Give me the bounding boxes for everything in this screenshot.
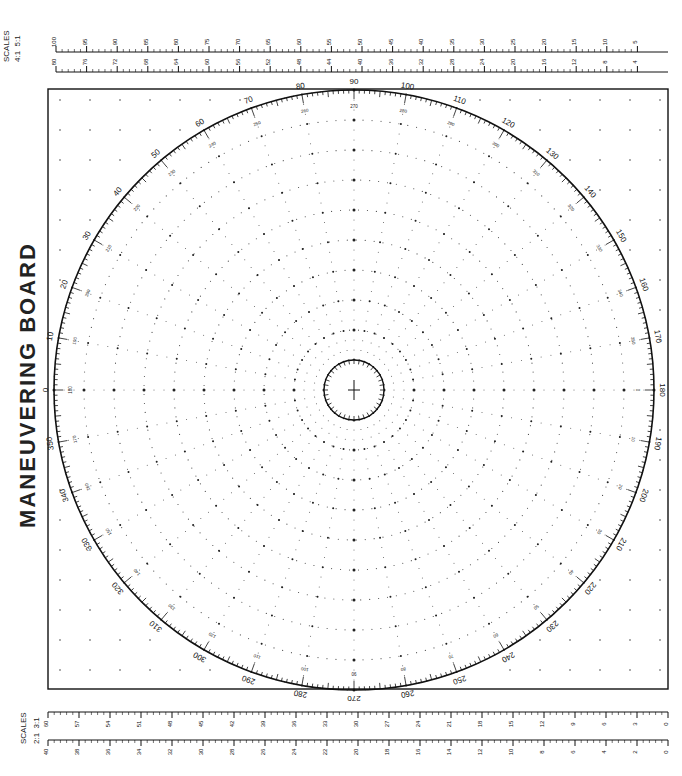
- scale-tick-label: 0: [663, 722, 669, 726]
- scale-tick-label: 12: [571, 58, 577, 65]
- scale-tick-label: 6: [601, 722, 607, 726]
- scale-tick-label: 33: [322, 720, 328, 727]
- reciprocal-bearing-label: 310: [532, 168, 541, 177]
- scale-tick-label: 27: [384, 720, 390, 727]
- scale-5-1: 1009590858075706560555045403530252015105: [51, 36, 668, 52]
- bearing-label: 20: [58, 278, 70, 290]
- reciprocal-bearing-label: 50: [532, 604, 539, 611]
- scale-tick-label: 32: [418, 58, 424, 65]
- scale-tick-label: 21: [446, 720, 452, 727]
- bearing-label: 260: [400, 688, 415, 699]
- scale-tick-label: 68: [143, 58, 149, 65]
- top-scales-heading: SCALES: [2, 30, 11, 62]
- scale-tick-label: 42: [229, 720, 235, 727]
- reciprocal-bearing-label: 100: [300, 666, 309, 672]
- ratio-2-1: 2:1: [32, 733, 41, 744]
- scale-tick-label: 48: [296, 58, 302, 65]
- reciprocal-bearing-label: 180: [68, 386, 73, 394]
- scale-tick-label: 15: [508, 720, 514, 727]
- scale-tick-label: 48: [167, 720, 173, 727]
- scale-4-1: 80767268646056524844403632282420161284: [51, 58, 668, 72]
- reciprocal-bearing-label: 130: [167, 603, 176, 612]
- scale-tick-label: 56: [235, 58, 241, 65]
- reciprocal-bearing-label: 220: [132, 203, 141, 212]
- bearing-label: 170: [652, 329, 663, 344]
- scale-tick-label: 12: [539, 720, 545, 727]
- reciprocal-bearing-label: 110: [252, 653, 261, 660]
- scale-tick-label: 18: [384, 748, 390, 755]
- scale-2-1: 4038363432302826242220181614121086420: [43, 740, 669, 755]
- reciprocal-bearing-label: 200: [84, 288, 91, 297]
- scale-tick-label: 8: [539, 750, 545, 754]
- scale-tick-label: 76: [82, 58, 88, 65]
- scale-tick-label: 40: [418, 38, 424, 45]
- scale-tick-label: 16: [415, 748, 421, 755]
- reciprocal-bearing-label: 60: [492, 632, 499, 639]
- reciprocal-bearing-label: 320: [567, 203, 576, 212]
- scale-tick-label: 39: [260, 720, 266, 727]
- reciprocal-bearing-label: 270: [350, 104, 358, 109]
- reciprocal-bearing-label: 140: [132, 567, 141, 576]
- reciprocal-bearing-label: 330: [595, 244, 603, 253]
- scale-tick-label: 40: [43, 748, 49, 755]
- scale-tick-label: 45: [388, 38, 394, 45]
- scale-tick-label: 95: [82, 38, 88, 45]
- bearing-label: 70: [243, 94, 255, 106]
- scale-tick-label: 25: [510, 38, 516, 45]
- scale-tick-label: 5: [632, 40, 638, 44]
- scale-tick-label: 52: [265, 58, 271, 65]
- scale-tick-label: 60: [204, 58, 210, 65]
- reciprocal-bearing-label: 70: [447, 653, 454, 660]
- scale-tick-label: 38: [74, 748, 80, 755]
- scale-3-1: 60575451484542393633302724211815129630: [43, 712, 669, 727]
- bottom-scales: 6057545148454239363330272421181512963040…: [43, 712, 669, 755]
- scale-tick-label: 36: [388, 58, 394, 65]
- scale-tick-label: 45: [198, 720, 204, 727]
- reciprocal-bearing-label: 290: [447, 120, 456, 127]
- bearing-label: 270: [347, 694, 361, 703]
- bearing-label: 10: [45, 331, 56, 342]
- bottom-scales-heading: SCALES: [19, 712, 28, 744]
- scale-tick-label: 10: [508, 748, 514, 755]
- scale-tick-label: 20: [353, 748, 359, 755]
- scale-tick-label: 14: [446, 748, 452, 755]
- scales-heading-text: SCALES: [2, 30, 11, 62]
- reciprocal-bearing-label: 90: [351, 671, 357, 676]
- reciprocal-bearing-label: 340: [617, 289, 624, 298]
- scale-tick-label: 9: [570, 722, 576, 726]
- ratio-4-1: 4:1: [13, 51, 22, 62]
- reciprocal-bearing-label: 160: [84, 482, 91, 491]
- reciprocal-bearing-label: 240: [208, 140, 217, 148]
- scales-heading-text: SCALES: [19, 712, 28, 744]
- scale-tick-label: 30: [479, 38, 485, 45]
- scale-tick-label: 60: [296, 38, 302, 45]
- scale-tick-label: 51: [136, 720, 142, 727]
- ratio-3-1: 3:1: [32, 717, 41, 728]
- scale-tick-label: 28: [229, 748, 235, 755]
- bearing-label: 150: [614, 228, 629, 245]
- scale-tick-label: 80: [173, 38, 179, 45]
- scale-tick-label: 24: [291, 748, 297, 755]
- scale-tick-label: 34: [136, 748, 142, 755]
- bearing-label: 280: [293, 688, 308, 699]
- bearing-label: 120: [500, 116, 517, 131]
- scale-tick-label: 10: [602, 38, 608, 45]
- scale-tick-label: 8: [602, 60, 608, 64]
- bearing-label: 100: [400, 81, 415, 92]
- scale-tick-label: 22: [322, 748, 328, 755]
- scale-tick-label: 15: [571, 38, 577, 45]
- reciprocal-bearing-label: 230: [167, 168, 176, 177]
- maneuvering-board: 1009590858075706560555045403530252015105…: [0, 0, 682, 776]
- reciprocal-bearing-label: 120: [207, 631, 216, 639]
- scale-tick-label: 2: [632, 750, 638, 754]
- reciprocal-bearing-label: 350: [630, 337, 636, 346]
- scale-tick-label: 18: [477, 720, 483, 727]
- bearing-label: 210: [614, 536, 629, 553]
- reciprocal-bearing-label: 260: [301, 108, 310, 114]
- reciprocal-bearing-label: 80: [400, 666, 406, 672]
- bearing-label: 290: [240, 673, 256, 686]
- scale-tick-label: 50: [357, 38, 363, 45]
- reciprocal-bearing-label: 20: [617, 484, 624, 491]
- scale-tick-label: 12: [477, 748, 483, 755]
- bearing-label: 30: [81, 229, 94, 242]
